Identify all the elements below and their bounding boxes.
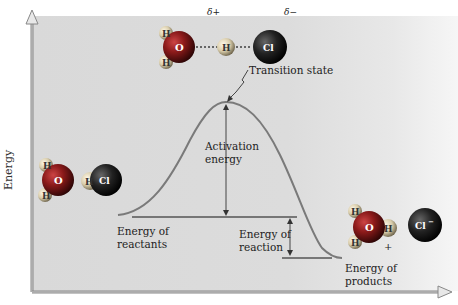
delta-minus-label: δ− bbox=[284, 6, 297, 19]
svg-text:O: O bbox=[54, 175, 63, 186]
svg-text:Cl: Cl bbox=[263, 43, 274, 53]
svg-text:O: O bbox=[175, 42, 184, 53]
svg-text:H: H bbox=[222, 43, 231, 53]
reactant-water-molecule: H H O bbox=[38, 158, 74, 202]
atom-h: H bbox=[43, 161, 52, 171]
transition-state-molecule: H H O H Cl bbox=[159, 26, 287, 69]
delta-plus-label: δ+ bbox=[207, 6, 220, 19]
y-axis-arrow-icon bbox=[26, 10, 38, 24]
reactant-hcl-molecule: H Cl bbox=[81, 164, 122, 196]
transition-state-pointer bbox=[229, 70, 248, 99]
energy-of-products-label: Energy of products bbox=[345, 262, 397, 288]
activation-energy-label: Activation energy bbox=[205, 140, 259, 166]
svg-text:H: H bbox=[384, 224, 393, 234]
svg-text:H: H bbox=[351, 207, 360, 217]
transition-state-label: Transition state bbox=[249, 64, 333, 77]
svg-text:H: H bbox=[162, 58, 171, 68]
svg-text:Cl: Cl bbox=[415, 221, 426, 231]
energy-of-reactants-label: Energy of reactants bbox=[117, 225, 169, 251]
svg-text:−: − bbox=[428, 217, 434, 226]
svg-text:H: H bbox=[162, 29, 171, 39]
product-chloride-ion: Cl − bbox=[408, 208, 442, 242]
energy-of-reaction-label: Energy of reaction bbox=[239, 228, 291, 254]
svg-text:H: H bbox=[85, 177, 94, 187]
svg-text:Cl: Cl bbox=[99, 176, 110, 186]
svg-text:H: H bbox=[351, 238, 360, 248]
svg-text:O: O bbox=[365, 222, 374, 233]
hydronium-charge-label: + bbox=[384, 240, 392, 253]
x-axis-arrow-icon bbox=[438, 286, 452, 298]
svg-text:H: H bbox=[42, 191, 51, 201]
